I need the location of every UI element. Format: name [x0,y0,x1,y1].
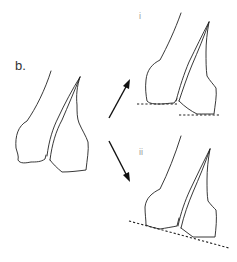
panel-i-right-outline [179,22,216,114]
panel-i-inner-line-1 [176,22,209,101]
panel-i-inner-line-2 [179,22,209,101]
original-inner-line-2 [50,77,80,160]
original-shape [16,71,88,172]
panel-i-left-outline [146,13,181,104]
original-right-outline [50,77,88,172]
figure-canvas: b. i ii [0,0,237,262]
arrow-to-ii [109,141,130,182]
panel-ii-baseline-slanted [129,221,229,248]
arrow-to-i [109,79,130,118]
panel-ii-right-outline [181,149,216,237]
panel-ii-left-outline [145,136,181,229]
panel-i-shape [137,13,220,115]
original-left-outline [16,71,51,163]
panel-ii-inner-line-2 [181,149,210,228]
panel-ii-shape [129,136,229,248]
diagram-drawing [0,0,237,262]
panel-ii-inner-line-1 [178,149,210,226]
